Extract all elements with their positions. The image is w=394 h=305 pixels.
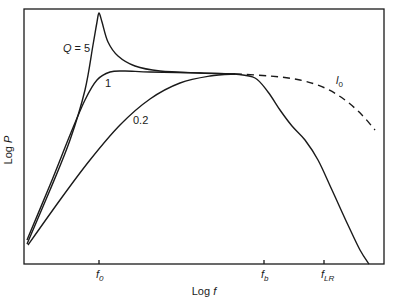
curve-q-5 [27,13,235,244]
tick-label: f0 [96,268,104,283]
y-axis-label: Log P [2,135,14,164]
curve-q-1 [27,71,235,240]
curve-f-b-cutoff [235,74,369,264]
x-axis-label: Log f [192,285,217,297]
chart: f0fbfLR Q = 510.2l0 Log P Log f [0,0,394,305]
tick-label: fLR [321,268,335,283]
curve-label: l0 [336,74,343,89]
curve-labels: Q = 510.2l0 [63,42,343,126]
tick-label: fb [261,268,269,283]
curve-l-0 [235,74,375,130]
curve-label: Q = 5 [63,42,90,54]
curve-q-0-2 [28,74,235,245]
curve-label: 1 [105,77,111,89]
curve-label: 0.2 [133,114,148,126]
